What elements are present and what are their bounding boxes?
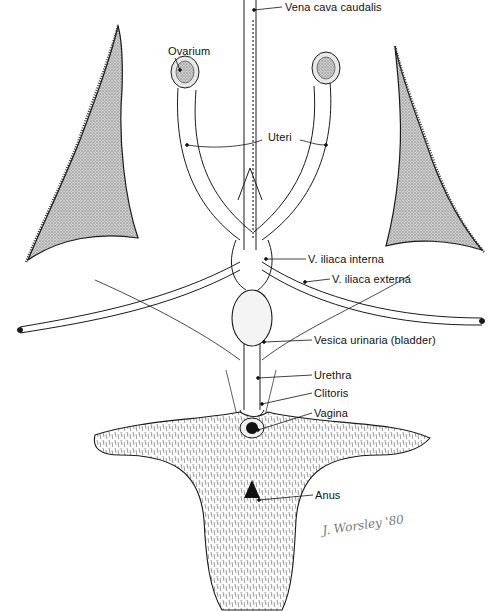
label-vena-cava-caudalis: Vena cava caudalis (285, 1, 382, 13)
ovarium-left (171, 56, 199, 88)
label-ovarium: Ovarium (168, 45, 210, 57)
right-wing (386, 46, 484, 252)
body-fur (94, 412, 430, 610)
label-urethra: Urethra (314, 369, 351, 381)
label-anus: Anus (315, 489, 340, 501)
label-uteri: Uteri (268, 131, 292, 143)
vena-cava-caudalis (244, 0, 256, 250)
ovarium-right (312, 52, 340, 84)
vesica-urinaria (232, 290, 272, 346)
anatomical-figure (0, 0, 499, 611)
left-wing (26, 26, 138, 262)
label-vesica-urinaria: Vesica urinaria (bladder) (314, 334, 436, 346)
label-v-iliaca-interna: V. iliaca interna (308, 253, 384, 265)
label-vagina: Vagina (314, 407, 348, 419)
label-v-iliaca-externa: V. iliaca externa (332, 273, 411, 285)
label-clitoris: Clitoris (314, 387, 348, 399)
